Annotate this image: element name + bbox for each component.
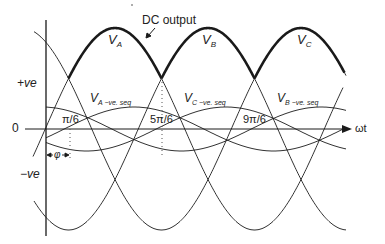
phase-label-b: VB — [202, 33, 216, 49]
angle-label-9pi6: 9π/6 — [243, 114, 266, 125]
phase-label-a: VA — [108, 33, 122, 49]
zero-label: 0 — [12, 122, 19, 134]
pos-label: +ve — [17, 77, 37, 89]
neg-seq-label-c: VC −ve. seq — [184, 92, 226, 106]
phase-label-c: VC — [297, 33, 311, 49]
angle-label-pi6: π/6 — [62, 114, 79, 125]
neg-seq-label-a: VA −ve. seq — [90, 92, 131, 106]
dc-output-pointer — [146, 28, 155, 38]
rectifier-waveform-diagram — [0, 0, 385, 244]
neg-seq-label-b: VB −ve. seq — [277, 92, 318, 106]
omega-t-label: ωt — [355, 123, 367, 134]
angle-label-5pi6: 5π/6 — [150, 114, 173, 125]
neg-label: −ve — [20, 168, 40, 180]
phi-label: φ — [54, 150, 61, 160]
axis-arrow-icon — [342, 125, 352, 133]
dc-output-label: DC output — [142, 14, 196, 26]
stray-dot — [131, 4, 133, 6]
